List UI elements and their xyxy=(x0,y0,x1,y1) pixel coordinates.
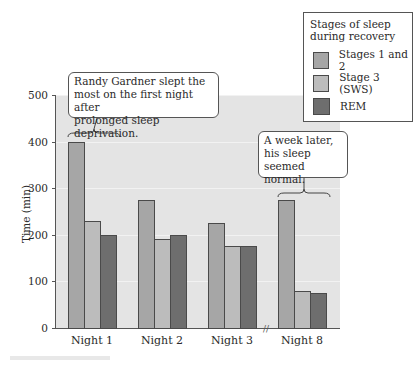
y-tick-mark xyxy=(52,95,56,96)
y-tick-mark xyxy=(52,235,56,236)
swatch-icon xyxy=(313,98,330,115)
y-axis-label: Time (min) xyxy=(20,174,32,254)
legend-label: Stages 1 and 2 xyxy=(339,48,412,72)
x-tick-label: Night 2 xyxy=(127,334,197,347)
swatch-icon xyxy=(313,75,329,92)
annotation-night1: Randy Gardner slept the most on the firs… xyxy=(68,72,219,118)
y-tick-label: 0 xyxy=(8,322,48,334)
annotation-line: seemed normal. xyxy=(264,160,342,186)
y-tick-label: 500 xyxy=(8,89,48,101)
bar xyxy=(154,239,171,329)
annotation-line: prolonged sleep deprivation. xyxy=(74,114,213,140)
bar xyxy=(294,291,311,329)
annotation-line: most on the first night after xyxy=(74,88,213,114)
annotation-night8: A week later, his sleep seemed normal. xyxy=(258,131,348,178)
bar xyxy=(138,200,155,329)
annotation-line: A week later, xyxy=(264,134,342,147)
bar xyxy=(224,246,241,329)
swatch-icon xyxy=(313,52,329,69)
legend-item-stages-1-2: Stages 1 and 2 xyxy=(313,51,412,69)
figure-caption xyxy=(10,356,110,360)
bar xyxy=(278,200,295,329)
legend-label: Stage 3 (SWS) xyxy=(339,71,412,95)
bar xyxy=(208,223,225,329)
y-tick-label: 400 xyxy=(8,136,48,148)
x-tick-label: Night 3 xyxy=(197,334,267,347)
legend-label: REM xyxy=(340,100,366,112)
bar xyxy=(84,221,101,329)
y-axis-line xyxy=(55,95,56,329)
x-tick-label: Night 1 xyxy=(57,334,127,347)
legend: Stages of sleep during recovery Stages 1… xyxy=(303,12,413,122)
axis-break-icon: // xyxy=(263,324,269,334)
y-tick-mark xyxy=(52,188,56,189)
y-tick-mark xyxy=(52,142,56,143)
bar xyxy=(310,293,327,329)
legend-item-sws: Stage 3 (SWS) xyxy=(313,74,412,92)
bar xyxy=(170,235,187,329)
y-tick-mark xyxy=(52,328,56,329)
legend-title: during recovery xyxy=(310,30,406,42)
annotation-line: Randy Gardner slept the xyxy=(74,75,213,88)
x-tick-label: Night 8 xyxy=(267,334,337,347)
legend-title: Stages of sleep xyxy=(310,18,406,30)
y-tick-label: 100 xyxy=(8,275,48,287)
annotation-line: his sleep xyxy=(264,147,342,160)
bar xyxy=(240,246,257,329)
bar xyxy=(68,142,85,329)
legend-item-rem: REM xyxy=(313,97,366,115)
bar xyxy=(100,235,117,329)
y-tick-mark xyxy=(52,281,56,282)
